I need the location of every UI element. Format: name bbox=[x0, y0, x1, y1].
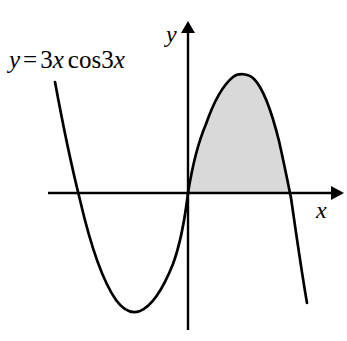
x-axis-arrow-icon bbox=[331, 186, 344, 200]
y-axis-arrow-icon bbox=[181, 21, 195, 33]
equation-lhs: y bbox=[9, 46, 20, 73]
figure-container: y=3xcos3x y x bbox=[0, 0, 347, 341]
y-axis-label: y bbox=[166, 22, 177, 46]
equation-function-variable: x bbox=[114, 46, 125, 73]
equation-function: cos3 bbox=[64, 46, 114, 73]
equation-variable: x bbox=[53, 46, 64, 73]
x-axis-label: x bbox=[316, 198, 327, 222]
equation-label: y=3xcos3x bbox=[9, 47, 125, 72]
equation-coefficient: 3 bbox=[40, 46, 53, 73]
equation-equals: = bbox=[20, 46, 40, 73]
